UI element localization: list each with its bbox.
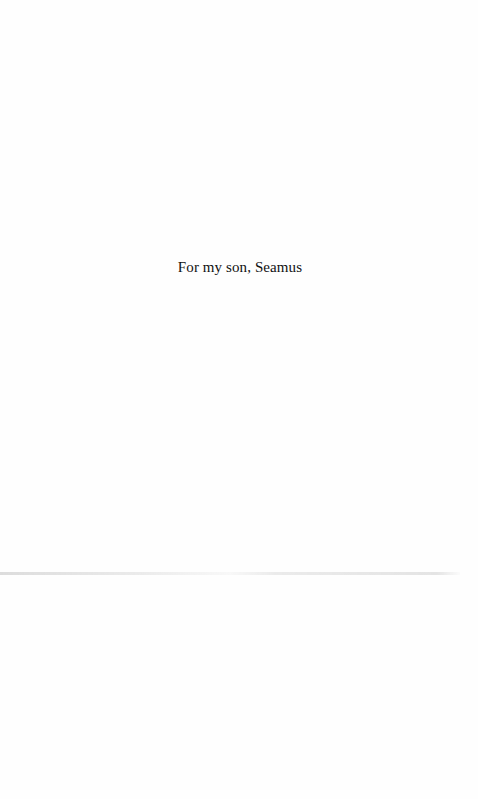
dedication-text: For my son, Seamus (0, 259, 478, 276)
book-page: For my son, Seamus (0, 0, 478, 799)
scan-artifact-line (0, 572, 460, 575)
